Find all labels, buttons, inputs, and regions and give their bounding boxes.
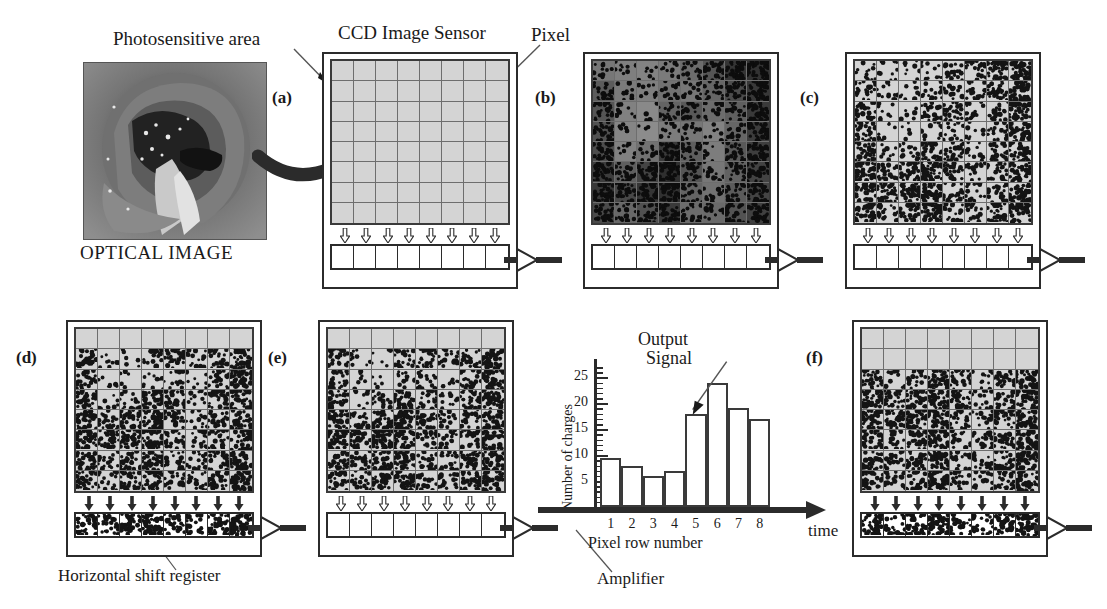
pixel-cell	[164, 471, 186, 491]
register-cell	[921, 246, 943, 268]
pixel-cell	[972, 329, 994, 349]
pixel-cell	[142, 370, 164, 390]
register-cell	[637, 246, 659, 268]
panel-letter-a: (a)	[272, 88, 292, 108]
transfer-arrow-solid	[127, 496, 137, 511]
pixel-cell	[164, 349, 186, 369]
pixel-cell	[376, 102, 398, 122]
pixel-cell	[877, 81, 899, 101]
pixel-cell	[899, 162, 921, 182]
pixel-cell	[877, 102, 899, 122]
pixel-cell	[972, 349, 994, 369]
pixel-cell	[398, 122, 420, 142]
pixel-cell	[482, 430, 504, 450]
pixel-cell	[98, 329, 120, 349]
pixel-cell	[420, 61, 442, 81]
register-cell	[987, 246, 1009, 268]
pixel-cell	[899, 81, 921, 101]
transfer-arrow-hollow	[708, 228, 718, 243]
x-tick-label: 2	[624, 516, 640, 532]
pixel-cell	[442, 102, 464, 122]
pixel-cell	[120, 410, 142, 430]
pixel-cell	[950, 370, 972, 390]
pixel-cell	[965, 142, 987, 162]
pixel-cell	[659, 61, 681, 81]
pixel-cell	[354, 102, 376, 122]
pixel-cell	[208, 370, 230, 390]
pixel-cell	[372, 370, 394, 390]
pixel-cell	[987, 183, 1009, 203]
pixel-cell	[906, 471, 928, 491]
register-cell	[972, 514, 994, 536]
pixel-cell	[928, 410, 950, 430]
pixel-cell	[972, 451, 994, 471]
pixel-cell	[615, 203, 637, 223]
pixel-cell	[703, 81, 725, 101]
pixel-cell	[208, 451, 230, 471]
pixel-cell	[350, 471, 372, 491]
pixel-cell	[747, 81, 769, 101]
pixel-cell	[950, 349, 972, 369]
pixel-cell	[438, 370, 460, 390]
pixel-cell	[921, 122, 943, 142]
pixel-cell	[464, 162, 486, 182]
pixel-cell	[332, 61, 354, 81]
pixel-cell	[328, 329, 350, 349]
y-tick	[597, 440, 603, 442]
charge-transfer-arrows	[74, 495, 254, 512]
pixel-cell	[416, 370, 438, 390]
pixel-cell	[747, 142, 769, 162]
pixel-cell	[877, 203, 899, 223]
x-tick-label: 4	[667, 516, 683, 532]
pixel-cell	[398, 183, 420, 203]
register-cell	[416, 514, 438, 536]
x-tick-label: 6	[709, 516, 725, 532]
pixel-cell	[1009, 122, 1031, 142]
pixel-label: Pixel	[531, 24, 570, 46]
pixel-cell	[164, 430, 186, 450]
pixel-cell	[943, 102, 965, 122]
pixel-cell	[637, 61, 659, 81]
pixel-cell	[928, 329, 950, 349]
pixel-cell	[394, 410, 416, 430]
y-axis-title: Number of charges	[560, 404, 576, 511]
pixel-cell	[987, 162, 1009, 182]
pixel-cell	[1016, 390, 1038, 410]
pixel-cell	[460, 329, 482, 349]
bar-6	[707, 383, 728, 507]
transfer-arrow-solid	[956, 496, 966, 511]
pixel-cell	[354, 183, 376, 203]
register-cell	[994, 514, 1016, 536]
register-cell	[862, 514, 884, 536]
transfer-arrow-hollow	[486, 496, 496, 511]
pixel-cell	[230, 451, 252, 471]
pixel-cell	[899, 102, 921, 122]
transfer-arrow-hollow	[447, 228, 457, 243]
pixel-cell	[950, 329, 972, 349]
pixel-cell	[420, 81, 442, 101]
transfer-arrow-hollow	[751, 228, 761, 243]
pixel-cell	[921, 61, 943, 81]
pixel-cell	[972, 410, 994, 430]
pixel-cell	[376, 122, 398, 142]
pixel-cell	[482, 370, 504, 390]
pixel-cell	[398, 102, 420, 122]
register-cell	[884, 514, 906, 536]
pixel-cell	[98, 370, 120, 390]
register-cell	[877, 246, 899, 268]
pixel-cell	[1009, 203, 1031, 223]
amplifier-symbol	[1027, 247, 1085, 273]
register-cell	[398, 246, 420, 268]
pixel-cell	[855, 142, 877, 162]
transfer-arrow-hollow	[404, 228, 414, 243]
pixel-cell	[855, 203, 877, 223]
pixel-cell	[877, 61, 899, 81]
horizontal-shift-register-label: Horizontal shift register	[58, 566, 220, 586]
pixel-cell	[593, 122, 615, 142]
pixel-grid	[326, 327, 506, 493]
pixel-cell	[486, 142, 508, 162]
pixel-cell	[328, 471, 350, 491]
pixel-cell	[855, 102, 877, 122]
pixel-cell	[438, 451, 460, 471]
pixel-cell	[943, 142, 965, 162]
